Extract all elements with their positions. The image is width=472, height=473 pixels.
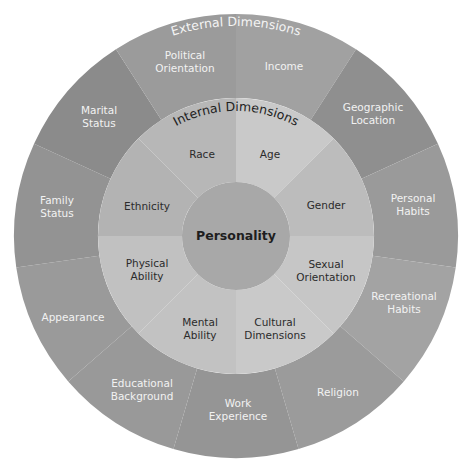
- internal-label-mental-ability: MentalAbility: [182, 316, 218, 341]
- external-label-line: Work: [225, 397, 253, 409]
- internal-label-line: Cultural: [254, 316, 295, 328]
- personality-label: Personality: [196, 228, 276, 243]
- external-label-line: Geographic: [343, 101, 404, 113]
- external-label-line: Status: [82, 117, 115, 129]
- internal-label-ethnicity: Ethnicity: [124, 200, 170, 212]
- external-label-line: Orientation: [155, 62, 214, 74]
- external-label-line: Educational: [111, 377, 173, 389]
- external-label-marital-status: MaritalStatus: [81, 104, 117, 129]
- internal-label-line: Ethnicity: [124, 200, 170, 212]
- external-label-family-status: FamilyStatus: [40, 194, 74, 219]
- internal-label-line: Race: [189, 148, 215, 160]
- internal-label-physical-ability: PhysicalAbility: [126, 257, 169, 282]
- external-label-personal-habits: PersonalHabits: [391, 192, 436, 217]
- internal-label-line: Physical: [126, 257, 169, 269]
- internal-label-line: Orientation: [296, 271, 355, 283]
- external-label-line: Experience: [209, 410, 268, 422]
- external-label-line: Recreational: [371, 290, 437, 302]
- external-label-line: Appearance: [41, 311, 104, 323]
- external-label-line: Family: [40, 194, 74, 206]
- external-label-educational-background: EducationalBackground: [111, 377, 174, 402]
- external-label-income: Income: [265, 60, 304, 72]
- internal-label-age: Age: [260, 148, 280, 160]
- internal-label-line: Dimensions: [244, 329, 305, 341]
- internal-label-line: Mental: [182, 316, 218, 328]
- external-label-religion: Religion: [317, 386, 359, 398]
- internal-label-line: Sexual: [308, 258, 343, 270]
- external-label-geographic-location: GeographicLocation: [343, 101, 404, 126]
- external-label-line: Personal: [391, 192, 436, 204]
- external-label-appearance: Appearance: [41, 311, 104, 323]
- external-label-line: Income: [265, 60, 304, 72]
- diversity-dimensions-wheel: IncomeGeographicLocationPersonalHabitsRe…: [0, 0, 472, 473]
- external-label-line: Status: [40, 207, 73, 219]
- internal-label-gender: Gender: [307, 199, 346, 211]
- internal-label-line: Gender: [307, 199, 346, 211]
- external-label-line: Religion: [317, 386, 359, 398]
- internal-label-race: Race: [189, 148, 215, 160]
- internal-label-line: Ability: [131, 270, 164, 282]
- internal-label-line: Age: [260, 148, 280, 160]
- internal-label-line: Ability: [184, 329, 217, 341]
- external-label-line: Habits: [396, 205, 430, 217]
- external-label-line: Political: [165, 49, 205, 61]
- external-label-line: Marital: [81, 104, 117, 116]
- external-label-line: Background: [111, 390, 174, 402]
- external-label-line: Habits: [387, 303, 421, 315]
- external-label-line: Location: [351, 114, 395, 126]
